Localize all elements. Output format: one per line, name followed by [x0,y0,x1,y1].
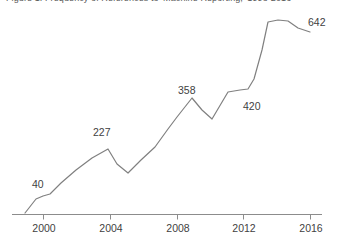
x-tick-label-2012: 2012 [232,222,255,234]
data-label-227: 227 [93,126,111,138]
line-chart: Figure 1. Frequency of References to 'Ma… [0,0,338,247]
x-tick-label-2008: 2008 [166,222,189,234]
x-tick-label-2004: 2004 [99,222,122,234]
data-label-358: 358 [178,84,196,96]
data-label-420: 420 [243,100,261,112]
x-tick-label-2000: 2000 [32,222,55,234]
chart-plot-area [0,0,338,247]
data-label-40: 40 [32,178,44,190]
data-label-642: 642 [308,16,326,28]
data-series-line [25,20,310,213]
x-tick-label-2016: 2016 [299,222,322,234]
